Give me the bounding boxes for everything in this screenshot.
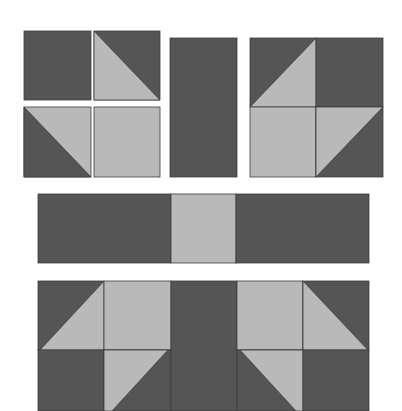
quilt-diagram (0, 0, 402, 411)
half-square-triangle-top-right (94, 31, 160, 100)
dark-square (24, 31, 91, 100)
light-square (94, 107, 160, 177)
corner-block-unit (250, 38, 383, 177)
assembled-row (38, 281, 369, 411)
four-patch-unit (24, 31, 160, 177)
dark-rectangle-unit (170, 38, 237, 177)
half-square-triangle-bottom-left (24, 107, 91, 177)
center-strip (38, 194, 369, 263)
